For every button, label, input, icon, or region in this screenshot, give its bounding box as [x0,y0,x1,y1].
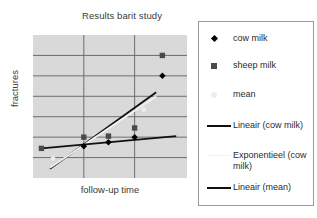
chart-legend: cow milk sheep milk mean Lineair (cow mi… [198,21,314,206]
plot-canvas [33,35,187,178]
legend-label-exponentieel-cow-milk: Exponentieel (cow milk) [232,150,315,172]
solid-line-icon [206,120,232,132]
faint-line-icon [206,150,232,162]
legend-label-mean: mean [232,89,256,100]
legend-label-lineair-mean: Lineair (mean) [232,182,291,193]
data-markers [39,53,166,161]
trendline [50,96,156,168]
square-marker-icon [206,60,232,72]
legend-item-exponentieel-cow-milk: Exponentieel (cow milk) [199,150,315,172]
legend-item-lineair-mean: Lineair (mean) [199,182,315,194]
data-point [51,156,56,161]
faint-marker-icon [206,89,232,101]
data-point [160,53,165,58]
data-point [132,125,137,130]
plot-area [33,35,187,178]
data-point [159,73,166,80]
data-point [106,133,111,138]
legend-label-cow-milk: cow milk [232,33,268,44]
diamond-marker-icon [206,33,232,45]
data-point [39,146,44,151]
legend-item-lineair-cow-milk: Lineair (cow milk) [199,120,315,132]
legend-label-lineair-cow-milk: Lineair (cow milk) [232,120,303,131]
data-point [81,134,86,139]
legend-item-sheep-milk: sheep milk [199,60,315,72]
legend-item-cow-milk: cow milk [199,33,315,45]
data-point [141,107,146,112]
legend-item-mean: mean [199,89,315,101]
chart-figure: Results barit study fractures follow-up … [0,0,317,218]
legend-label-sheep-milk: sheep milk [232,60,276,71]
x-axis-label: follow-up time [33,184,187,195]
solid-line-icon [206,182,232,194]
y-axis-label: fractures [9,54,20,124]
chart-title: Results barit study [52,10,192,21]
data-point [105,139,112,146]
